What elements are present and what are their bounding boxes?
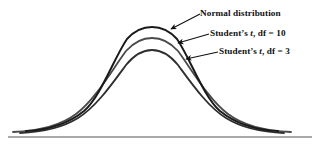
leader-arrow-student-t-df3 — [186, 52, 218, 59]
label-normal-text: Normal distribution — [200, 8, 281, 18]
distribution-plot — [0, 0, 323, 146]
distribution-comparison-figure: Normal distribution Student’s t, df = 10… — [0, 0, 323, 146]
curve-normal-distribution — [26, 27, 278, 131]
label-normal-distribution: Normal distribution — [200, 9, 281, 18]
leader-arrow-normal — [171, 14, 200, 29]
label-t3-prefix: Student’s — [219, 46, 259, 56]
curve-student-t-df3 — [20, 50, 284, 133]
label-student-t-df10: Student’s t, df = 10 — [210, 29, 286, 38]
label-t10-prefix: Student’s — [210, 28, 250, 38]
label-t10-suffix: , df = 10 — [253, 28, 286, 38]
leader-arrow-student-t-df10 — [178, 34, 209, 43]
label-student-t-df3: Student’s t, df = 3 — [219, 47, 290, 56]
label-t3-suffix: , df = 3 — [262, 46, 290, 56]
